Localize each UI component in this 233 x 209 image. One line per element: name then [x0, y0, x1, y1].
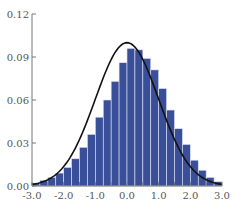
histogram-bar — [175, 129, 183, 186]
x-tick-label: 0.0 — [119, 190, 135, 201]
histogram-bar — [56, 173, 64, 186]
x-tick-label: -3.0 — [22, 190, 41, 201]
histogram-bar — [95, 117, 103, 186]
x-tick-label: -2.0 — [54, 190, 73, 201]
histogram-bar — [127, 48, 135, 186]
y-tick-label: 0.12 — [7, 9, 29, 20]
histogram-bar — [143, 58, 151, 186]
y-tick-label: 0.09 — [7, 52, 29, 63]
x-tick-label: 2.0 — [182, 190, 198, 201]
x-tick-label: 1.0 — [151, 190, 167, 201]
histogram-bar — [111, 81, 119, 186]
histogram-bar — [87, 134, 95, 186]
histogram-bar — [80, 147, 88, 186]
histogram-bar — [64, 167, 72, 186]
histogram-bars — [32, 48, 222, 186]
histogram-bar — [72, 159, 80, 186]
histogram-bar — [119, 63, 127, 186]
histogram-bar — [103, 100, 111, 186]
y-tick-label: 0.03 — [7, 138, 29, 149]
histogram-chart: 0.000.030.060.090.12 -3.0-2.0-1.00.01.02… — [0, 0, 233, 209]
y-tick-label: 0.06 — [7, 95, 29, 106]
x-tick-label: -1.0 — [86, 190, 105, 201]
histogram-bar — [135, 50, 143, 186]
x-tick-label: 3.0 — [214, 190, 230, 201]
